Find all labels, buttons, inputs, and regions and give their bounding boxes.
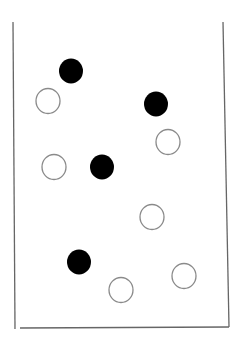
open-particle — [109, 278, 133, 303]
filled-particle — [67, 250, 91, 275]
filled-particle — [90, 155, 114, 180]
filled-particle — [59, 59, 83, 84]
particles — [36, 59, 196, 303]
particle-diagram — [0, 0, 243, 342]
right-wall — [223, 22, 229, 327]
open-particle — [156, 130, 180, 155]
open-particle — [42, 155, 66, 180]
container-bottom — [20, 327, 229, 328]
open-particle — [172, 264, 196, 289]
open-particle — [140, 205, 164, 230]
open-particle — [36, 89, 60, 114]
filled-particle — [144, 92, 168, 117]
left-wall — [13, 22, 15, 329]
